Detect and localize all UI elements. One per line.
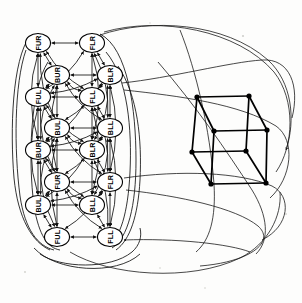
node-label: BUL [53,120,62,136]
cube-vertex [263,180,268,185]
paper-noise [24,22,287,289]
graph-node[interactable]: FUL [26,88,51,107]
node-label: FUR [53,174,62,190]
cube-edge [266,130,267,183]
cube-vertex [189,149,194,154]
graph-node[interactable]: BUR [26,141,51,160]
node-label: BUL [34,197,43,213]
cube-edge [246,151,266,183]
cube-vertex [194,94,199,99]
node-label: FLR [88,35,97,50]
cube-vertex [264,127,269,132]
graph-node[interactable]: FUR [26,34,51,53]
node-label: FLL [106,230,115,244]
node-label: BUR [34,141,43,158]
graph-node[interactable]: BLR [98,66,123,85]
graph-node[interactable]: FUR [45,173,70,192]
graph-node[interactable]: FUL [45,228,70,247]
node-label: FUL [34,89,43,104]
graph-edge [98,215,105,227]
cube-edge [197,96,249,97]
cube-edge [214,130,267,131]
graph-node[interactable]: BLR [80,141,105,160]
node-label: BLR [106,67,115,83]
node-label: BLR [88,142,97,158]
graph-node[interactable]: FLL [80,88,105,107]
cube-vertex [208,181,213,186]
graph-node[interactable]: FLR [98,173,123,192]
graph-node[interactable]: FLL [98,228,123,247]
cube-edge [192,152,211,184]
cube-edge [246,96,249,151]
graph-node[interactable]: BLL [80,196,105,215]
graph-node[interactable]: BUL [45,119,70,138]
figure-canvas: FURFLRBURBLRFULFLLBULBLLBURBLRFURFLRBULB… [0,0,302,303]
node-label: FLR [106,174,115,189]
cube-vertex [243,148,248,153]
graph-node[interactable]: BUR [45,66,70,85]
graph-node[interactable]: BLL [98,119,123,138]
cube-vertex [211,128,216,133]
octant-graph-figure: FURFLRBURBLRFULFLLBULBLLBURBLRFURFLRBULB… [0,0,302,303]
node-label: FUR [34,35,43,51]
graph-node[interactable]: FLR [80,34,105,53]
node-label: BLL [88,197,97,212]
graph-node[interactable]: BUL [26,196,51,215]
cube-vertex [246,93,251,98]
node-label: FUL [53,229,62,244]
node-label: BUR [53,66,62,83]
cube-edge [211,183,266,184]
cube-edge [192,151,246,152]
cube-edge [249,96,267,130]
node-label: BLL [106,120,115,135]
node-label: FLL [88,90,97,104]
